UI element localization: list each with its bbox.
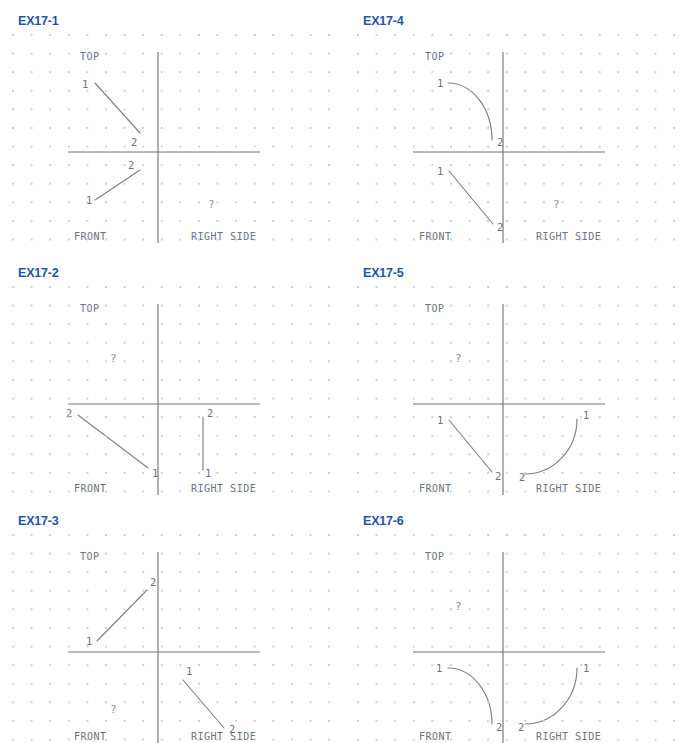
object-arc-right-side [525, 419, 577, 474]
view-label-top: TOP [425, 51, 445, 62]
endpoint-label-2-right-side: 2 [519, 471, 525, 483]
panel-title-ex17-4: EX17-4 [363, 14, 404, 28]
view-label-right-side: RIGHT SIDE [191, 483, 256, 494]
view-label-right-side: RIGHT SIDE [536, 483, 601, 494]
endpoint-label-2-front: 2 [496, 721, 502, 733]
view-label-right-side: RIGHT SIDE [191, 231, 256, 242]
endpoint-label-1-front: 1 [437, 414, 443, 426]
drawing-canvas-ex17-1[interactable]: TOPFRONTRIGHT SIDE?1212 [0, 28, 345, 243]
view-label-top: TOP [80, 551, 100, 562]
endpoint-label-2-top: 2 [131, 136, 137, 148]
object-line-top [97, 590, 147, 641]
object-line-front [449, 420, 492, 472]
endpoint-label-1-top: 1 [86, 635, 92, 647]
view-label-front: FRONT [74, 731, 107, 742]
endpoint-label-1-right-side: 1 [205, 467, 211, 479]
projection-drawing-ex17-3: TOPFRONTRIGHT SIDE?1212 [0, 528, 345, 743]
drawing-canvas-ex17-6[interactable]: TOPFRONTRIGHT SIDE?1212 [345, 528, 690, 743]
view-label-front: FRONT [74, 483, 107, 494]
object-arc-top [448, 83, 492, 140]
drawing-canvas-ex17-5[interactable]: TOPFRONTRIGHT SIDE?1212 [345, 280, 690, 495]
object-arc-front [448, 668, 492, 724]
exercise-panel-ex17-4: EX17-4TOPFRONTRIGHT SIDE?1212 [345, 0, 690, 243]
endpoint-label-2-right-side: 2 [229, 723, 235, 735]
drawing-canvas-ex17-2[interactable]: TOPFRONTRIGHT SIDE?1212 [0, 280, 345, 495]
view-label-top: TOP [425, 551, 445, 562]
missing-view-question-mark: ? [110, 352, 117, 365]
view-label-right-side: RIGHT SIDE [536, 231, 601, 242]
projection-drawing-ex17-2: TOPFRONTRIGHT SIDE?1212 [0, 280, 345, 495]
endpoint-label-2-front: 2 [66, 407, 72, 419]
missing-view-question-mark: ? [455, 600, 462, 613]
view-label-right-side: RIGHT SIDE [191, 731, 256, 742]
endpoint-label-1-right-side: 1 [186, 665, 192, 677]
view-label-top: TOP [80, 303, 100, 314]
panel-title-ex17-2: EX17-2 [18, 266, 59, 280]
projection-drawing-ex17-1: TOPFRONTRIGHT SIDE?1212 [0, 28, 345, 243]
endpoint-label-2-front: 2 [128, 159, 134, 171]
view-label-top: TOP [80, 51, 100, 62]
view-label-front: FRONT [419, 731, 452, 742]
endpoint-label-1-front: 1 [152, 467, 158, 479]
object-line-front [78, 415, 148, 468]
panel-title-ex17-3: EX17-3 [18, 514, 59, 528]
exercise-panel-ex17-3: EX17-3TOPFRONTRIGHT SIDE?1212 [0, 500, 345, 743]
endpoint-label-1-front: 1 [86, 194, 92, 206]
object-arc-right-side [525, 668, 577, 724]
endpoint-label-1-front: 1 [437, 165, 443, 177]
drawing-canvas-ex17-4[interactable]: TOPFRONTRIGHT SIDE?1212 [345, 28, 690, 243]
endpoint-label-1-right-side: 1 [583, 409, 589, 421]
missing-view-question-mark: ? [208, 198, 215, 211]
endpoint-label-2-front: 2 [497, 221, 503, 233]
endpoint-label-2-top: 2 [497, 136, 503, 148]
missing-view-question-mark: ? [110, 703, 117, 716]
endpoint-label-2-top: 2 [150, 576, 156, 588]
endpoint-label-1-top: 1 [437, 77, 443, 89]
object-line-front [95, 170, 140, 200]
exercise-panel-ex17-5: EX17-5TOPFRONTRIGHT SIDE?1212 [345, 252, 690, 495]
endpoint-label-1-top: 1 [82, 78, 88, 90]
endpoint-label-2-right-side: 2 [207, 407, 213, 419]
endpoint-label-2-front: 2 [495, 470, 501, 482]
missing-view-question-mark: ? [455, 352, 462, 365]
exercise-panel-ex17-1: EX17-1TOPFRONTRIGHT SIDE?1212 [0, 0, 345, 243]
panel-title-ex17-1: EX17-1 [18, 14, 59, 28]
exercise-panel-ex17-2: EX17-2TOPFRONTRIGHT SIDE?1212 [0, 252, 345, 495]
panel-title-ex17-5: EX17-5 [363, 266, 404, 280]
object-line-front [449, 171, 493, 224]
missing-view-question-mark: ? [553, 198, 560, 211]
object-line-top [95, 83, 140, 133]
projection-drawing-ex17-6: TOPFRONTRIGHT SIDE?1212 [345, 528, 690, 743]
endpoint-label-1-right-side: 1 [583, 662, 589, 674]
projection-drawing-ex17-4: TOPFRONTRIGHT SIDE?1212 [345, 28, 690, 243]
view-label-front: FRONT [419, 231, 452, 242]
object-line-right-side [183, 680, 224, 728]
endpoint-label-2-right-side: 2 [518, 721, 524, 733]
endpoint-label-1-front: 1 [436, 662, 442, 674]
panel-title-ex17-6: EX17-6 [363, 514, 404, 528]
view-label-front: FRONT [419, 483, 452, 494]
view-label-right-side: RIGHT SIDE [536, 731, 601, 742]
drawing-canvas-ex17-3[interactable]: TOPFRONTRIGHT SIDE?1212 [0, 528, 345, 743]
projection-drawing-ex17-5: TOPFRONTRIGHT SIDE?1212 [345, 280, 690, 495]
view-label-top: TOP [425, 303, 445, 314]
view-label-front: FRONT [74, 231, 107, 242]
exercise-panel-ex17-6: EX17-6TOPFRONTRIGHT SIDE?1212 [345, 500, 690, 743]
